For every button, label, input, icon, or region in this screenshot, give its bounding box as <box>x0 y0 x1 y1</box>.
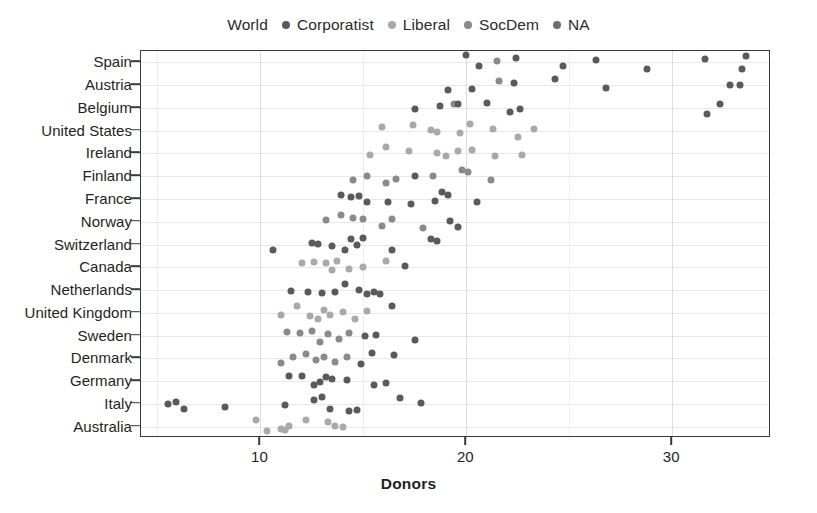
data-point <box>442 153 449 160</box>
y-axis-tick-mark <box>131 288 140 290</box>
data-point <box>350 176 357 183</box>
data-point <box>360 263 367 270</box>
data-point <box>345 407 352 414</box>
data-point <box>716 100 723 107</box>
data-point <box>345 329 352 336</box>
data-point <box>469 86 476 93</box>
y-axis-tick-mark <box>131 265 140 267</box>
data-point <box>364 308 371 315</box>
data-point <box>362 333 369 340</box>
data-point <box>310 259 317 266</box>
data-point <box>325 331 332 338</box>
data-point <box>348 193 355 200</box>
data-point <box>457 130 464 137</box>
legend-entry-socdem[interactable]: SocDem <box>464 16 539 34</box>
gridline-horizontal <box>141 85 769 86</box>
data-point <box>339 423 346 430</box>
legend-entry-na[interactable]: NA <box>553 16 590 34</box>
data-point <box>739 65 746 72</box>
data-point <box>411 106 418 113</box>
data-point <box>345 266 352 273</box>
y-axis-tick-label: France <box>85 190 132 205</box>
y-axis-tick-label: Switzerland <box>54 236 132 251</box>
gridline-horizontal <box>141 313 769 314</box>
y-axis-tick-mark <box>131 152 140 154</box>
y-axis-tick-label: Spain <box>93 54 132 69</box>
legend-entry-liberal[interactable]: Liberal <box>388 16 450 34</box>
data-point <box>603 85 610 92</box>
gridline-horizontal <box>141 427 769 428</box>
x-axis-tick-label: 20 <box>457 448 474 465</box>
data-point <box>446 217 453 224</box>
gridline-horizontal <box>141 336 769 337</box>
data-point <box>407 200 414 207</box>
legend-title: World <box>227 16 268 34</box>
data-point <box>358 361 365 368</box>
gridline-horizontal <box>141 245 769 246</box>
data-point <box>331 358 338 365</box>
data-point <box>321 354 328 361</box>
data-point <box>514 134 521 141</box>
data-point <box>726 81 733 88</box>
data-point <box>313 357 320 364</box>
data-point <box>327 312 334 319</box>
y-axis-tick-mark <box>131 83 140 85</box>
y-axis-tick-mark <box>131 311 140 313</box>
data-point <box>397 395 404 402</box>
gridline-vertical <box>672 51 673 436</box>
y-axis-tick-mark <box>131 357 140 359</box>
data-point <box>401 263 408 270</box>
gridline-horizontal <box>141 404 769 405</box>
data-point <box>317 379 324 386</box>
data-point <box>333 257 340 264</box>
data-point <box>593 56 600 63</box>
gridline-horizontal <box>141 358 769 359</box>
data-point <box>370 382 377 389</box>
data-point <box>356 193 363 200</box>
y-axis-tick-label: Norway <box>81 213 132 228</box>
data-point <box>304 288 311 295</box>
data-point <box>560 62 567 69</box>
data-point <box>467 120 474 127</box>
data-point <box>465 169 472 176</box>
data-point <box>409 122 416 129</box>
data-point <box>383 143 390 150</box>
data-point <box>475 63 482 70</box>
y-axis-tick-label: Germany <box>70 373 132 388</box>
data-point <box>284 329 291 336</box>
data-point <box>490 126 497 133</box>
y-axis-tick-label: Netherlands <box>51 282 132 297</box>
legend-dot-socdem <box>464 21 472 29</box>
data-point <box>389 302 396 309</box>
data-point <box>405 148 412 155</box>
data-point <box>420 224 427 231</box>
data-point <box>294 303 301 310</box>
data-point <box>343 354 350 361</box>
data-point <box>282 401 289 408</box>
data-point <box>378 222 385 229</box>
y-axis-tick-mark <box>131 402 140 404</box>
data-point <box>323 216 330 223</box>
y-axis-tick-mark <box>131 197 140 199</box>
gridline-horizontal <box>141 222 769 223</box>
y-axis-tick-label: Ireland <box>86 145 132 160</box>
data-point <box>455 148 462 155</box>
x-axis-tick-label: 30 <box>663 448 680 465</box>
legend-label-socdem: SocDem <box>479 16 539 34</box>
data-point <box>181 406 188 413</box>
x-axis-tick-mark <box>464 437 466 445</box>
data-point <box>298 259 305 266</box>
data-point <box>364 198 371 205</box>
y-axis-tick-mark <box>131 129 140 131</box>
gridline-horizontal <box>141 108 769 109</box>
data-point <box>337 212 344 219</box>
gridline-horizontal <box>141 62 769 63</box>
legend-entry-corporatist[interactable]: Corporatist <box>282 16 374 34</box>
data-point <box>368 349 375 356</box>
data-point <box>494 58 501 65</box>
legend-dot-corporatist <box>282 21 290 29</box>
data-point <box>323 260 330 267</box>
data-point <box>512 55 519 62</box>
data-point <box>296 330 303 337</box>
data-point <box>278 359 285 366</box>
